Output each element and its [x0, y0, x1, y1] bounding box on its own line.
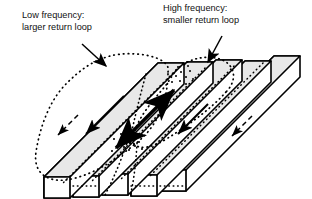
- bar-array-diagram: Low frequency: larger return loop High f…: [0, 0, 312, 199]
- low-frequency-label-line2: larger return loop: [22, 22, 92, 32]
- low-frequency-label-line1: Low frequency:: [22, 10, 84, 20]
- high-frequency-label-line1: High frequency:: [163, 3, 227, 13]
- high-frequency-label-line2: smaller return loop: [163, 15, 239, 25]
- diagram-root: Low frequency: larger return loop High f…: [0, 0, 312, 199]
